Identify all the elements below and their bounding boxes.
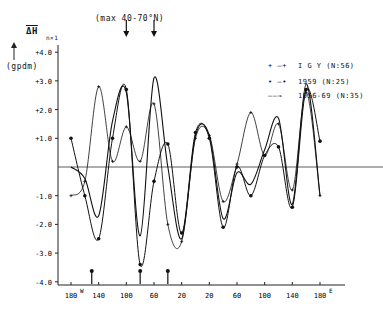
svg-text:100: 100 — [120, 292, 133, 300]
chart-plot: +4.0+3.0+2.0+1.0-1.0-2.0-3.0-4.0180W1401… — [0, 0, 383, 314]
svg-text:100: 100 — [258, 292, 271, 300]
legend-symbol: + —+ — [268, 62, 287, 70]
legend-label: 1956-69 (N:35) — [298, 92, 364, 100]
svg-text:W: W — [80, 287, 84, 294]
y-axis-unit: (gpdm) — [6, 62, 38, 71]
legend-label: 1959 (N:25) — [298, 78, 350, 86]
svg-text:60: 60 — [233, 292, 241, 300]
svg-text:60: 60 — [150, 292, 158, 300]
svg-text:+2.0: +2.0 — [35, 107, 52, 115]
svg-text:180: 180 — [314, 292, 327, 300]
y-axis-label: ΔH — [26, 26, 38, 36]
svg-text:180: 180 — [65, 292, 78, 300]
svg-text:20: 20 — [177, 292, 185, 300]
svg-text:20: 20 — [205, 292, 213, 300]
svg-text:E: E — [329, 287, 333, 294]
svg-text:+4.0: +4.0 — [35, 49, 52, 57]
y-axis-subscript: n×1 — [46, 34, 58, 41]
chart-subtitle: (max 40-70°N) — [95, 14, 164, 23]
svg-text:-1.0: -1.0 — [35, 193, 52, 201]
svg-text:140: 140 — [92, 292, 105, 300]
svg-text:140: 140 — [286, 292, 299, 300]
legend-label: I G Y (N:56) — [298, 62, 355, 70]
legend-symbol: ——→ — [268, 92, 282, 100]
svg-text:+1.0: +1.0 — [35, 135, 52, 143]
svg-text:-4.0: -4.0 — [35, 279, 52, 287]
svg-text:-3.0: -3.0 — [35, 250, 52, 258]
svg-text:+3.0: +3.0 — [35, 78, 52, 86]
legend-symbol: • —• — [268, 78, 287, 86]
svg-text:-2.0: -2.0 — [35, 221, 52, 229]
